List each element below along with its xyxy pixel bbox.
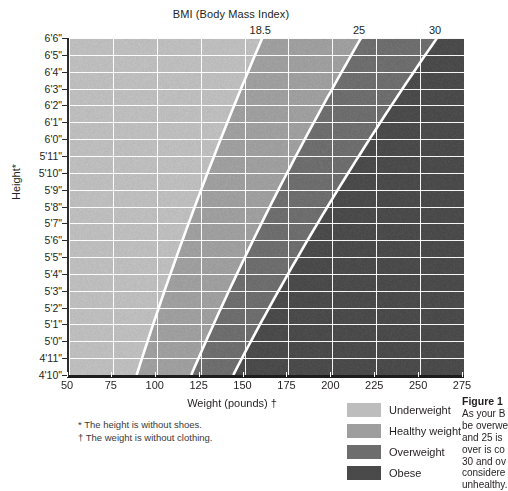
x-axis-tick-mark <box>418 372 419 377</box>
y-axis-tick-label: 6'0" <box>16 133 62 145</box>
chart-title: BMI (Body Mass Index) <box>0 8 462 20</box>
y-axis-tick-label: 5'1" <box>16 318 62 330</box>
figure-caption-line: and 25 is <box>462 432 508 444</box>
y-axis-tick-label: 6'5" <box>16 49 62 61</box>
figure-caption-title: Figure 1 <box>462 396 508 408</box>
y-axis-tick-label: 5'5" <box>16 251 62 263</box>
legend-label: Obese <box>389 467 421 479</box>
footnote-weight: † The weight is without clothing. <box>78 431 212 444</box>
y-axis-tick-mark <box>62 55 67 56</box>
x-axis-tick-mark <box>374 372 375 377</box>
x-axis-tick-label: 275 <box>453 379 471 391</box>
bmi-chart-canvas <box>69 38 464 375</box>
x-axis-tick-mark <box>462 372 463 377</box>
y-axis-tick-label: 6'6" <box>16 32 62 44</box>
x-axis-tick-label: 225 <box>365 379 383 391</box>
y-axis-tick-labels: 6'6"6'5"6'4"6'3"6'2"6'1"6'0"5'11"5'10"5'… <box>10 38 62 375</box>
y-axis-tick-mark <box>62 156 67 157</box>
y-axis-tick-mark <box>62 308 67 309</box>
y-axis-tick-label: 5'3" <box>16 285 62 297</box>
y-axis-tick-mark <box>62 240 67 241</box>
y-axis-tick-label: 5'8" <box>16 201 62 213</box>
footnotes: * The height is without shoes. † The wei… <box>78 418 212 444</box>
x-axis-tick-label: 125 <box>189 379 207 391</box>
y-axis-tick-label: 5'6" <box>16 234 62 246</box>
figure-caption-line: As your B <box>462 408 508 420</box>
y-axis-tick-mark <box>62 341 67 342</box>
y-axis-tick-label: 6'2" <box>16 99 62 111</box>
x-axis-tick-labels: 5075100125150175200225250275 <box>67 379 462 395</box>
y-axis-tick-mark <box>62 72 67 73</box>
figure-caption-line: over is co <box>462 444 508 456</box>
x-axis-tick-label: 250 <box>409 379 427 391</box>
x-axis-tick-mark <box>243 372 244 377</box>
y-axis-tick-mark <box>62 38 67 39</box>
legend-item: Obese <box>347 462 467 483</box>
y-axis-tick-mark <box>62 291 67 292</box>
legend-label: Underweight <box>389 404 451 416</box>
legend-label: Overweight <box>389 446 445 458</box>
y-axis-tick-label: 5'11" <box>16 150 62 162</box>
x-axis-tick-label: 175 <box>277 379 295 391</box>
chart-legend: UnderweightHealthy weightOverweightObese <box>347 399 467 483</box>
y-axis-tick-mark <box>62 139 67 140</box>
legend-swatch <box>347 466 381 480</box>
figure-caption-body: As your Bbe overweand 25 isover is co30 … <box>462 408 508 491</box>
y-axis-tick-mark <box>62 358 67 359</box>
x-axis-tick-label: 50 <box>61 379 73 391</box>
y-axis-tick-mark <box>62 207 67 208</box>
x-axis-tick-label: 200 <box>321 379 339 391</box>
y-axis-tick-mark <box>62 274 67 275</box>
y-axis-tick-label: 6'4" <box>16 66 62 78</box>
figure-caption-line: considere <box>462 467 508 479</box>
figure-caption: Figure 1 As your Bbe overweand 25 isover… <box>462 396 508 491</box>
y-axis-tick-label: 5'4" <box>16 268 62 280</box>
legend-item: Underweight <box>347 399 467 420</box>
x-axis-tick-mark <box>155 372 156 377</box>
x-axis-tick-label: 100 <box>146 379 164 391</box>
bmi-boundary-label: 18.5 <box>250 24 271 36</box>
legend-swatch <box>347 445 381 459</box>
y-axis-tick-mark <box>62 324 67 325</box>
y-axis-tick-mark <box>62 173 67 174</box>
y-axis-tick-label: 6'3" <box>16 83 62 95</box>
legend-item: Overweight <box>347 441 467 462</box>
x-axis-tick-mark <box>67 372 68 377</box>
y-axis-tick-mark <box>62 105 67 106</box>
bmi-boundary-label: 30 <box>429 24 441 36</box>
y-axis-tick-label: 5'7" <box>16 217 62 229</box>
bmi-boundary-label: 25 <box>353 24 365 36</box>
legend-swatch <box>347 424 381 438</box>
y-axis-tick-mark <box>62 122 67 123</box>
legend-swatch <box>347 403 381 417</box>
x-axis-tick-label: 150 <box>233 379 251 391</box>
y-axis-tick-label: 5'0" <box>16 335 62 347</box>
x-axis-tick-mark <box>330 372 331 377</box>
y-axis-tick-mark <box>62 223 67 224</box>
y-axis-tick-label: 5'9" <box>16 184 62 196</box>
legend-item: Healthy weight <box>347 420 467 441</box>
figure-caption-line: be overwe <box>462 420 508 432</box>
figure-caption-line: unhealthy. <box>462 479 508 491</box>
y-axis-tick-label: 4'11" <box>16 352 62 364</box>
bmi-plot-area <box>67 38 464 378</box>
footnote-height: * The height is without shoes. <box>78 418 212 431</box>
legend-label: Healthy weight <box>389 425 461 437</box>
y-axis-tick-mark <box>62 257 67 258</box>
figure-caption-line: 30 and ov <box>462 456 508 468</box>
y-axis-tick-label: 5'10" <box>16 167 62 179</box>
x-axis-tick-mark <box>286 372 287 377</box>
y-axis-tick-mark <box>62 190 67 191</box>
x-axis-tick-marks <box>67 372 462 378</box>
y-axis-tick-mark <box>62 89 67 90</box>
x-axis-tick-mark <box>199 372 200 377</box>
x-axis-tick-mark <box>111 372 112 377</box>
y-axis-tick-label: 5'2" <box>16 302 62 314</box>
y-axis-tick-marks <box>60 38 67 375</box>
y-axis-tick-label: 4'10" <box>16 369 62 381</box>
y-axis-tick-label: 6'1" <box>16 116 62 128</box>
x-axis-tick-label: 75 <box>105 379 117 391</box>
